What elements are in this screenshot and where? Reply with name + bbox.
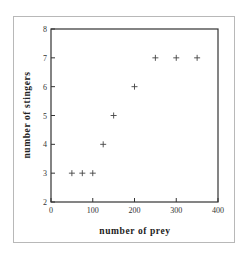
y-axis-title: number of stingers [22, 71, 32, 158]
y-tick-label: 5 [43, 112, 47, 121]
plus-marker-icon [132, 84, 138, 90]
plot-area-border [51, 29, 218, 202]
data-points [69, 55, 200, 176]
x-tick-label: 0 [49, 206, 53, 215]
y-tick-label: 3 [43, 169, 47, 178]
x-tick-label: 200 [129, 206, 141, 215]
x-tick-label: 100 [87, 206, 99, 215]
y-tick-label: 6 [43, 83, 47, 92]
y-axis-ticks: 2345678 [43, 25, 55, 207]
y-tick-label: 4 [43, 140, 47, 149]
x-tick-label: 400 [212, 206, 224, 215]
y-tick-label: 8 [43, 25, 47, 34]
scatter-chart: 0100200300400 2345678 number of prey num… [0, 0, 244, 258]
plus-marker-icon [111, 113, 117, 119]
x-tick-label: 300 [170, 206, 182, 215]
y-tick-label: 2 [43, 198, 47, 207]
plus-marker-icon [90, 170, 96, 176]
y-tick-label: 7 [43, 54, 47, 63]
plus-marker-icon [69, 170, 75, 176]
x-axis-ticks: 0100200300400 [49, 198, 224, 215]
x-axis-title: number of prey [99, 226, 170, 236]
plus-marker-icon [173, 55, 179, 61]
plus-marker-icon [79, 170, 85, 176]
plus-marker-icon [100, 141, 106, 147]
plus-marker-icon [194, 55, 200, 61]
plot-axes [51, 29, 218, 202]
plus-marker-icon [152, 55, 158, 61]
